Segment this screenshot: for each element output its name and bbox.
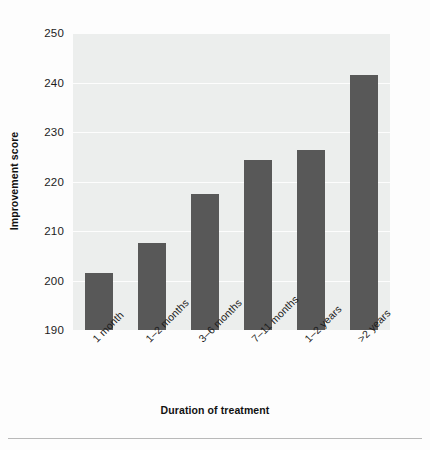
- x-tick-label: 7–11 months: [249, 293, 301, 345]
- x-tick-label: 1 month: [90, 309, 126, 345]
- x-axis-tick-labels: 1 month1–2 months3–6 months7–11 months1–…: [0, 0, 430, 450]
- x-tick-label: 1–2 years: [302, 303, 344, 345]
- bar-chart-figure: Improvement score 190200210220230240250 …: [0, 0, 430, 450]
- x-tick-label: >2 years: [355, 307, 393, 345]
- x-axis-title: Duration of treatment: [0, 404, 430, 416]
- x-tick-label: 1–2 months: [143, 296, 191, 344]
- x-tick-label: 3–6 months: [196, 296, 244, 344]
- footer-divider: [8, 438, 422, 439]
